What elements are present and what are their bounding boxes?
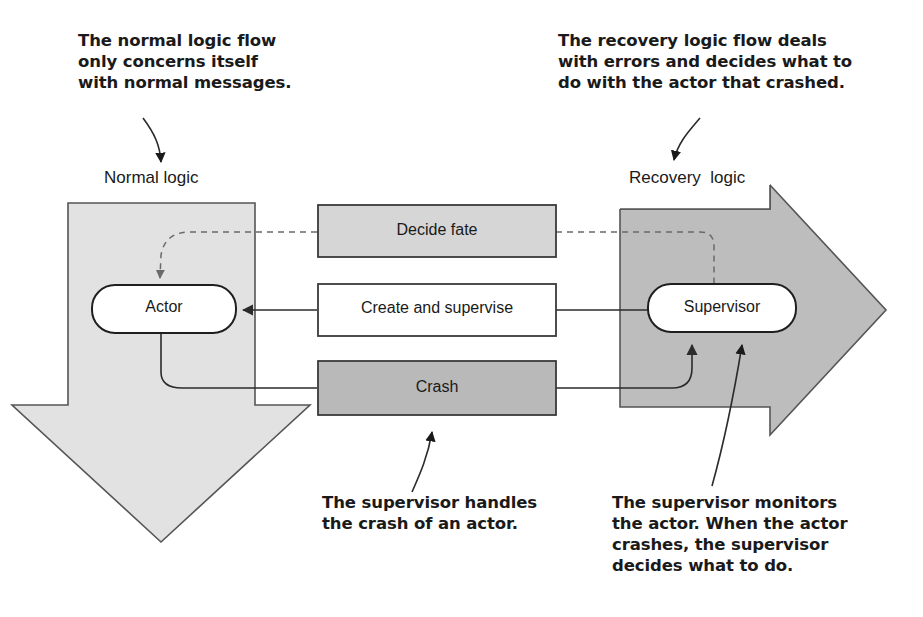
decide-fate-box-label: Decide fate	[318, 221, 556, 239]
callout-crash-leader	[412, 432, 432, 492]
callout-recovery-logic: The recovery logic flow deals with error…	[558, 30, 888, 93]
recovery-logic-flow-label: Recovery logic	[629, 168, 745, 188]
callout-supervisor-handles-crash: The supervisor handles the crash of an a…	[322, 492, 572, 534]
callout-recovery-leader	[674, 118, 700, 160]
callout-supervisor-monitors-actor: The supervisor monitors the actor. When …	[612, 492, 877, 576]
actor-node-label: Actor	[92, 298, 236, 316]
supervisor-node-label: Supervisor	[648, 298, 796, 316]
create-and-supervise-box-label: Create and supervise	[318, 299, 556, 317]
crash-box-label: Crash	[318, 378, 556, 396]
callout-normal-leader	[143, 118, 161, 162]
normal-logic-flow-label: Normal logic	[104, 168, 198, 188]
callout-normal-logic: The normal logic flow only concerns itse…	[78, 30, 328, 93]
diagram-canvas: The normal logic flow only concerns itse…	[0, 0, 923, 617]
